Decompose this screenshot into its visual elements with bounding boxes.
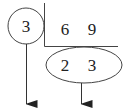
quotient-value: 2 xyxy=(61,56,70,75)
short-division-diagram: 3 6 9 2 3 xyxy=(0,0,126,111)
divisor-node: 3 xyxy=(8,8,44,44)
division-bracket xyxy=(45,3,119,47)
quotient-ellipse xyxy=(46,47,122,83)
divisor-value: 3 xyxy=(22,17,31,36)
dividends-row: 6 9 xyxy=(61,20,97,39)
quotient-node: 2 3 xyxy=(46,47,122,83)
dividend-value: 9 xyxy=(88,20,97,39)
quotient-value: 3 xyxy=(88,56,97,75)
dividend-value: 6 xyxy=(61,20,70,39)
